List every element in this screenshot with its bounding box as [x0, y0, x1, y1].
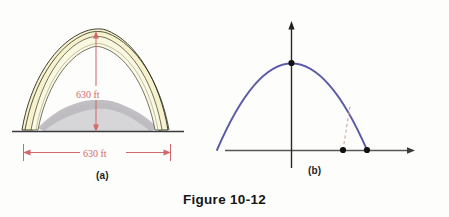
- arch-illustration-svg: [0, 0, 225, 190]
- figure-container: 630 ft 630 ft y x y: [0, 0, 449, 217]
- point-315-marker: [364, 147, 370, 153]
- point-215-marker: [340, 147, 346, 153]
- point-vertex-marker: [288, 60, 294, 66]
- panel-b-sublabel: (b): [308, 165, 321, 176]
- parabola-graph-svg: [225, 0, 449, 190]
- figure-caption: Figure 10-12: [0, 192, 449, 207]
- y-axis: [288, 21, 294, 168]
- panel-b-parabola-graph: y x y (0, 630) (315, 0) (215, 0): [225, 0, 449, 190]
- x-axis: [225, 147, 415, 154]
- arch-height-dimension-label: 630 ft: [76, 89, 100, 100]
- vertical-segment-dashed: [343, 106, 350, 150]
- panel-a-arch-illustration: 630 ft 630 ft: [0, 0, 225, 190]
- panel-a-sublabel: (a): [96, 170, 109, 181]
- arch-width-dimension-label: 630 ft: [83, 148, 107, 159]
